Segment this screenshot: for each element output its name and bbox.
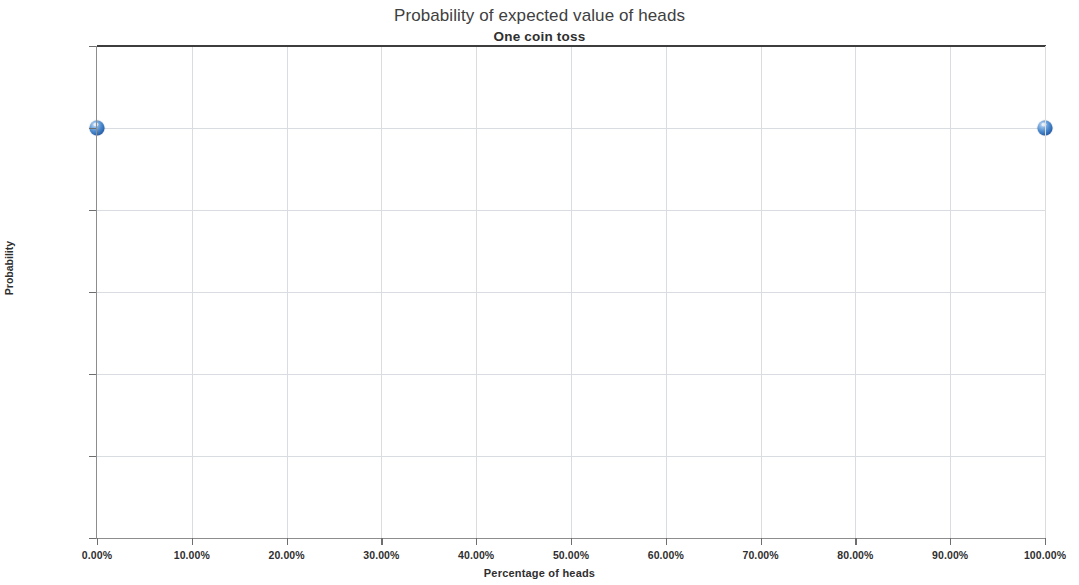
gridline-horizontal	[97, 292, 1045, 293]
x-axis-tick-label: 60.00%	[621, 549, 711, 561]
x-axis-tick	[476, 538, 477, 545]
x-axis-tick-label: 80.00%	[810, 549, 900, 561]
x-axis-tick	[950, 538, 951, 545]
x-axis-tick	[666, 538, 667, 545]
gridline-horizontal	[97, 374, 1045, 375]
x-axis-line	[90, 538, 1046, 539]
x-axis-tick-label: 90.00%	[905, 549, 995, 561]
gridline-horizontal	[97, 210, 1045, 211]
x-axis-tick	[761, 538, 762, 545]
x-axis-tick-label: 100.00%	[1000, 549, 1079, 561]
y-axis-tick	[89, 46, 96, 47]
y-axis-tick	[89, 456, 96, 457]
plot-area	[97, 46, 1045, 538]
chart-title: Probability of expected value of heads	[0, 6, 1079, 26]
x-axis-tick-label: 70.00%	[716, 549, 806, 561]
x-axis-tick	[381, 538, 382, 545]
y-axis-line	[96, 46, 97, 539]
plot-top-border	[97, 45, 1046, 47]
y-axis-tick	[89, 210, 96, 211]
x-axis-tick	[1045, 538, 1046, 545]
x-axis-title: Percentage of heads	[0, 567, 1079, 579]
x-axis-tick-label: 30.00%	[336, 549, 426, 561]
y-axis-title: Probability	[3, 228, 15, 308]
y-axis-tick	[89, 128, 96, 129]
x-axis-tick	[287, 538, 288, 545]
x-axis-tick-label: 20.00%	[242, 549, 332, 561]
y-axis-tick	[89, 374, 96, 375]
x-axis-tick-label: 10.00%	[147, 549, 237, 561]
gridline-horizontal	[97, 456, 1045, 457]
x-axis-tick-label: 50.00%	[526, 549, 616, 561]
x-axis-tick-label: 40.00%	[431, 549, 521, 561]
x-axis-tick	[855, 538, 856, 545]
x-axis-tick	[571, 538, 572, 545]
chart-canvas: Probability of expected value of heads O…	[0, 0, 1079, 585]
plot-right-border	[1045, 46, 1046, 538]
x-axis-tick-label: 0.00%	[52, 549, 142, 561]
y-axis-tick	[89, 292, 96, 293]
x-axis-tick	[192, 538, 193, 545]
y-axis-tick	[89, 538, 96, 539]
gridline-horizontal	[97, 128, 1045, 129]
chart-subtitle: One coin toss	[0, 29, 1079, 44]
x-axis-tick	[97, 538, 98, 545]
